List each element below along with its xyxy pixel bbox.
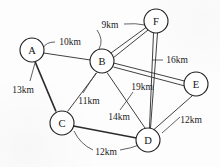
node-e-label: E — [193, 79, 199, 90]
weight-label-a-b: 10km — [59, 37, 81, 47]
leader-12km-cd — [74, 131, 93, 150]
weight-label-b-f: 9km — [102, 20, 120, 30]
edge-b-e — [114, 63, 185, 81]
leader-13km — [30, 63, 35, 81]
leader-10km — [43, 42, 55, 48]
node-c[interactable]: C — [50, 111, 74, 135]
edge-b-f — [111, 28, 146, 54]
edge-b-f-secondary — [113, 30, 148, 58]
edge-a-b — [44, 53, 91, 60]
node-e[interactable]: E — [184, 72, 208, 96]
node-b-label: B — [98, 56, 105, 67]
graph-canvas: A B C D E F — [0, 0, 220, 167]
leader-9km — [124, 24, 145, 25]
node-f[interactable]: F — [144, 9, 168, 33]
leader-12km-cd-right — [120, 145, 139, 150]
edge-c-d — [74, 126, 137, 138]
leader-12km-de — [162, 117, 180, 133]
node-group: A B C D E F — [20, 9, 208, 152]
weight-label-b-e: 16km — [166, 55, 188, 65]
weight-label-group: 9km 10km 16km 13km 11km 19km 14km 12km 1… — [12, 20, 202, 157]
weight-label-b-d: 14km — [108, 112, 130, 122]
weight-label-a-c: 13km — [12, 85, 34, 95]
node-d[interactable]: D — [136, 128, 160, 152]
edge-a-c — [35, 62, 56, 112]
node-a[interactable]: A — [20, 38, 44, 62]
leader-9km-b — [97, 30, 101, 49]
weight-label-d-e: 12km — [180, 115, 202, 125]
node-d-label: D — [144, 135, 152, 146]
graph-diagram: A B C D E F — [0, 0, 220, 167]
leader-11km — [83, 73, 96, 93]
node-b[interactable]: B — [90, 49, 114, 73]
weight-label-c-d: 12km — [95, 147, 117, 157]
weight-label-d-f: 19km — [131, 82, 153, 92]
node-a-label: A — [28, 45, 36, 56]
node-c-label: C — [58, 118, 65, 129]
node-f-label: F — [153, 16, 159, 27]
weight-label-b-c: 11km — [78, 96, 100, 106]
